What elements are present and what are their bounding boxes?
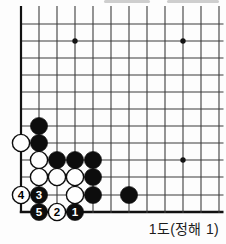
go-book-page: 43521 1도(정해 1) bbox=[0, 0, 226, 244]
white-stone bbox=[30, 168, 47, 185]
black-stone bbox=[84, 168, 101, 185]
white-stone bbox=[30, 151, 47, 168]
move-2-white-stone: 2 bbox=[48, 203, 65, 220]
move-number: 2 bbox=[54, 206, 60, 218]
black-stone bbox=[30, 117, 47, 134]
white-stone bbox=[66, 168, 83, 185]
diagram-caption: 1도(정해 1) bbox=[149, 221, 219, 237]
go-board-diagram: 43521 bbox=[0, 0, 226, 244]
black-stone bbox=[84, 186, 101, 203]
move-3-black-stone: 3 bbox=[30, 186, 47, 203]
move-number: 5 bbox=[36, 206, 43, 218]
move-number: 4 bbox=[18, 189, 25, 201]
move-5-black-stone: 5 bbox=[30, 203, 47, 220]
white-stone bbox=[66, 186, 83, 203]
black-stone bbox=[48, 151, 65, 168]
move-1-black-stone: 1 bbox=[66, 203, 83, 220]
black-stone bbox=[120, 186, 137, 203]
white-stone bbox=[48, 168, 65, 185]
move-number: 3 bbox=[36, 189, 42, 201]
black-stone bbox=[66, 151, 83, 168]
move-4-white-stone: 4 bbox=[12, 186, 29, 203]
black-stone bbox=[30, 134, 47, 151]
white-stone bbox=[12, 134, 29, 151]
move-number: 1 bbox=[72, 206, 79, 218]
black-stone bbox=[84, 151, 101, 168]
